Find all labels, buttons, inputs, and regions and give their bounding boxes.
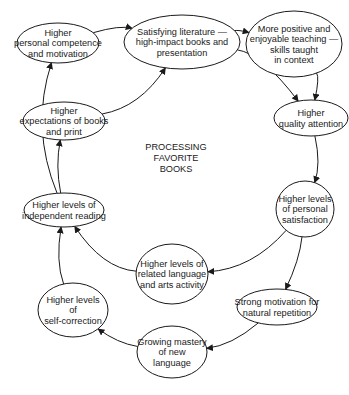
node-label-line: and arts activity (140, 280, 204, 290)
node-label-line: and print (46, 127, 82, 137)
node-label-line: self-correction (44, 316, 102, 326)
node-label-line: personal competence (14, 38, 102, 48)
arrow-n7-to-n8 (208, 230, 286, 271)
arrow-n6-to-n5 (58, 140, 61, 193)
node-label-line: independent reading (22, 211, 106, 221)
diagram-node-n6: Higher levels ofindependent reading (22, 193, 106, 227)
node-label-line: Higher (50, 106, 77, 116)
diagram-node-n8: Higher levels ofrelated languageand arts… (136, 244, 208, 304)
node-label-line: presentation (157, 48, 208, 58)
node-label-line: Higher (44, 28, 71, 38)
node-label-line: expectations of books (20, 116, 109, 126)
node-label-line: in context (274, 55, 314, 65)
node-label-line: enjoyable teaching — (250, 34, 339, 44)
node-label-line: Strong motivation for (235, 297, 320, 307)
node-label-line: of (69, 305, 77, 315)
nodes: Higherpersonal competenceand motivationS… (14, 11, 348, 378)
node-label-line: natural repetition (243, 308, 311, 318)
arrow-n9-to-n6 (59, 227, 64, 284)
diagram-node-n4: Higherquality attention (274, 100, 348, 136)
node-label-line: quality attention (279, 119, 343, 129)
diagram-node-n3: More positive andenjoyable teaching —ski… (246, 11, 342, 77)
center-label-line-3: BOOKS (160, 164, 193, 174)
diagram-node-n5: Higherexpectations of booksand print (20, 102, 109, 140)
node-label-line: related language (138, 269, 206, 279)
diagram-node-n7: Higher levelsof personalsatisfaction (276, 181, 334, 237)
center-label-line-2: FAVORITE (154, 153, 199, 163)
diagram-node-n11: Growing masteryof newlanguage (137, 326, 207, 378)
diagram-node-n10: Strong motivation fornatural repetition (235, 289, 320, 325)
arrow-n5-to-n2 (102, 68, 165, 114)
node-label-line: Higher levels (46, 295, 100, 305)
arrow-n1-to-n2 (93, 27, 132, 32)
node-label-line: language (153, 358, 191, 368)
node-label-line: and motivation (28, 49, 88, 59)
node-label-line: of new (158, 347, 185, 357)
arrow-n10-to-n11 (207, 323, 259, 348)
node-label-line: Higher levels of (32, 200, 96, 210)
node-label-line: high-impact books and (136, 37, 228, 47)
arrow-n7-to-n10 (286, 237, 303, 290)
diagram-node-n2: Satisfying literature —high-impact books… (124, 15, 240, 69)
node-label-line: Higher levels (278, 194, 332, 204)
node-label-line: of personal (282, 204, 327, 214)
arrow-n11-to-n9 (98, 329, 138, 347)
diagram-node-n1: Higherpersonal competenceand motivation (14, 23, 102, 63)
center-label-line-1: PROCESSING (145, 142, 206, 152)
arrow-n3-to-n4 (315, 73, 318, 100)
node-label-line: Growing mastery (137, 337, 207, 347)
arrow-n8-to-n6 (75, 226, 137, 271)
node-label-line: skills taught (270, 45, 318, 55)
center-label: PROCESSING FAVORITE BOOKS (145, 142, 206, 174)
node-label-line: Higher (297, 108, 324, 118)
arrow-n4-to-n7 (315, 136, 318, 183)
node-label-line: Higher levels of (140, 259, 204, 269)
node-label-line: More positive and (258, 24, 331, 34)
node-label-line: Satisfying literature — (137, 27, 228, 37)
cycle-diagram: Higherpersonal competenceand motivationS… (0, 0, 349, 395)
node-label-line: satisfaction (282, 215, 328, 225)
diagram-node-n9: Higher levelsofself-correction (38, 283, 108, 337)
